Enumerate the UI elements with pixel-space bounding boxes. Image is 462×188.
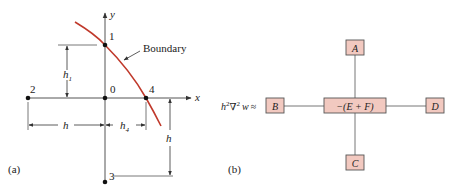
point-0-label: 0 bbox=[110, 83, 116, 95]
stencil-node-left-label: B bbox=[272, 101, 278, 112]
equation-lhs: h2∇2w≈ bbox=[221, 100, 257, 112]
h4-label: h4 bbox=[120, 119, 130, 134]
x-axis-label: x bbox=[194, 91, 200, 103]
stencil-node-right-label: D bbox=[430, 101, 439, 112]
h1-label: h1 bbox=[63, 68, 72, 83]
point-3 bbox=[103, 180, 108, 185]
stencil-node-top-label: A bbox=[351, 43, 359, 54]
y-axis-label: y bbox=[109, 8, 115, 20]
point-4 bbox=[144, 96, 149, 101]
panel-a: y x Boundary 0 1 2 3 4 h1 h h4 bbox=[8, 8, 200, 184]
panel-b: A B −(E + F) D C h2∇2w≈ (b) bbox=[221, 40, 444, 176]
point-2 bbox=[26, 96, 31, 101]
stencil-node-center-label: −(E + F) bbox=[336, 101, 374, 113]
boundary-pointer-arrow bbox=[124, 51, 140, 60]
boundary-curve bbox=[75, 22, 161, 126]
point-1-label: 1 bbox=[109, 30, 115, 42]
figure-canvas: y x Boundary 0 1 2 3 4 h1 h h4 bbox=[0, 0, 462, 188]
h-right-label: h bbox=[166, 132, 172, 144]
point-2-label: 2 bbox=[30, 83, 36, 95]
panel-b-caption: (b) bbox=[228, 163, 241, 176]
point-1 bbox=[103, 43, 108, 48]
h-left-label: h bbox=[63, 119, 69, 131]
stencil-node-bottom-label: C bbox=[352, 158, 359, 169]
point-0 bbox=[103, 96, 108, 101]
panel-a-caption: (a) bbox=[8, 163, 21, 176]
point-4-label: 4 bbox=[149, 83, 155, 95]
boundary-label: Boundary bbox=[143, 42, 187, 54]
